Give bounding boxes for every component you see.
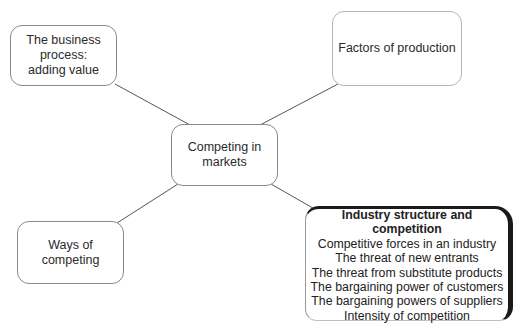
node-item: The threat from substitute products bbox=[312, 266, 503, 280]
node-label-line: markets bbox=[202, 155, 246, 170]
node-item: The threat of new entrants bbox=[335, 251, 479, 265]
node-label-line: adding value bbox=[28, 63, 99, 78]
node-ways-of-competing: Ways of competing bbox=[17, 221, 124, 284]
node-item: Competitive forces in an industry bbox=[318, 237, 496, 251]
node-factors-of-production: Factors of production bbox=[332, 11, 462, 86]
edge-competing-factors bbox=[260, 84, 338, 125]
node-business-process: The business process: adding value bbox=[10, 25, 117, 86]
node-label-line: Competing in bbox=[188, 140, 262, 155]
node-item: The bargaining power of customers bbox=[311, 280, 504, 294]
node-item: The bargaining powers of suppliers bbox=[311, 294, 502, 308]
node-label-line: process: bbox=[40, 48, 87, 63]
node-label-line: competing bbox=[42, 253, 100, 268]
edge-competing-ways bbox=[117, 184, 178, 223]
node-label-line: The business bbox=[26, 33, 100, 48]
node-industry-structure: Industry structure and competition Compe… bbox=[305, 206, 513, 321]
node-label-line: Factors of production bbox=[338, 41, 455, 56]
node-label-line: Ways of bbox=[48, 238, 93, 253]
node-heading: Industry structure and competition bbox=[306, 208, 508, 237]
node-item: Intensity of competition bbox=[344, 309, 470, 323]
edge-competing-business bbox=[115, 84, 190, 125]
node-competing-in-markets: Competing in markets bbox=[171, 124, 278, 186]
